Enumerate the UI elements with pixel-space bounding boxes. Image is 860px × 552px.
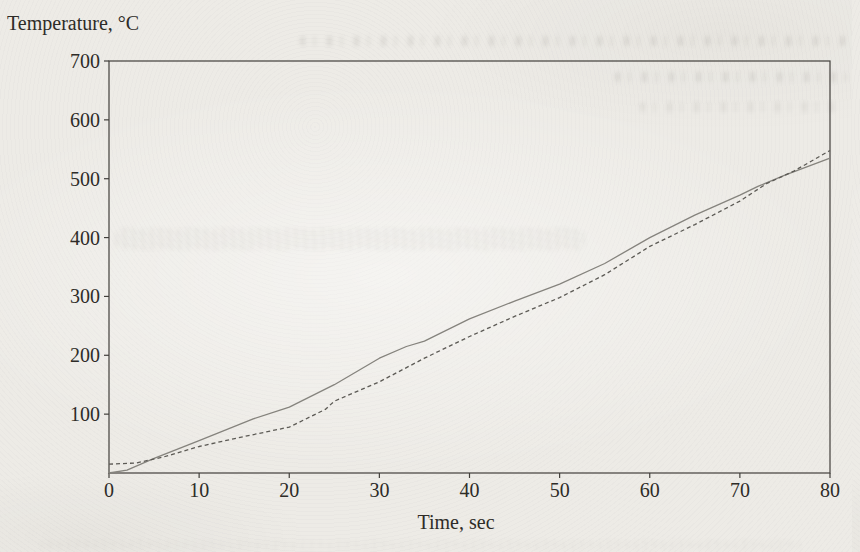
- x-tick-label: 0: [79, 480, 139, 500]
- y-tick-label: 700: [40, 51, 100, 71]
- y-tick-label: 500: [40, 169, 100, 189]
- x-tick-label: 10: [169, 480, 229, 500]
- x-tick-label: 80: [800, 480, 860, 500]
- y-tick-label: 600: [40, 110, 100, 130]
- plot-frame: [109, 61, 830, 473]
- series-solid-line: [109, 158, 830, 473]
- x-tick-label: 40: [440, 480, 500, 500]
- series-dashed-line: [109, 151, 830, 465]
- x-tick-label: 60: [620, 480, 680, 500]
- y-tick-label: 200: [40, 345, 100, 365]
- x-tick-label: 20: [259, 480, 319, 500]
- x-axis-title: Time, sec: [356, 511, 556, 533]
- x-tick-label: 30: [349, 480, 409, 500]
- y-tick-label: 100: [40, 404, 100, 424]
- y-tick-label: 300: [40, 286, 100, 306]
- x-tick-label: 70: [710, 480, 770, 500]
- x-tick-label: 50: [530, 480, 590, 500]
- y-tick-label: 400: [40, 228, 100, 248]
